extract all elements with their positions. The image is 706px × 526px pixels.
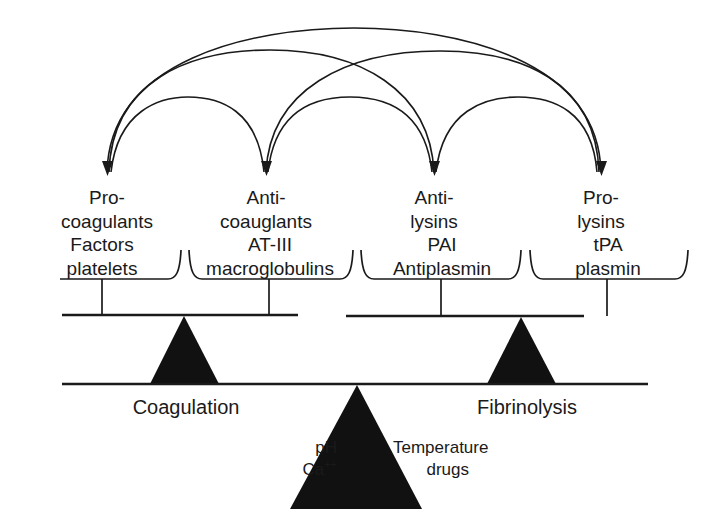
arrow-down-icon xyxy=(261,161,272,176)
arrow-down-icon xyxy=(596,161,607,176)
coagulation-label: Coagulation xyxy=(133,395,240,419)
arc-procoag-prolysins xyxy=(107,28,601,172)
arc-antilysins-prolysins xyxy=(436,97,597,172)
substance-factors-platelets: Factors platelets xyxy=(67,233,138,281)
category-anticoagulants: Anti- coauglants xyxy=(220,186,312,234)
category-antilysins: Anti- lysins xyxy=(410,186,458,234)
arrow-down-icon xyxy=(429,161,440,176)
modifiers-left: pH Ca++ xyxy=(302,437,337,481)
substance-at3-macroglobulins: AT-III macroglobulins xyxy=(206,233,334,281)
coagulation-fulcrum xyxy=(150,316,219,384)
arc-procoag-anticoag xyxy=(111,97,264,172)
arc-anticoag-antilysins xyxy=(268,97,432,172)
arrowheads xyxy=(102,161,607,176)
interaction-arcs xyxy=(107,28,601,172)
lever-bars xyxy=(62,315,584,316)
calcium-label: Ca++ xyxy=(302,459,337,481)
fibrinolysis-fulcrum xyxy=(487,317,556,384)
category-prolysins: Pro- lysins xyxy=(577,186,625,234)
small-fulcrums xyxy=(150,316,556,384)
category-procoagulants: Pro- coagulants xyxy=(61,186,153,234)
substance-tpa-plasmin: tPA plasmin xyxy=(575,233,640,281)
fibrinolysis-label: Fibrinolysis xyxy=(477,395,577,419)
stems xyxy=(102,279,607,316)
modifiers-right: Temperature drugs xyxy=(393,437,488,481)
substance-pai-antiplasmin: PAI Antiplasmin xyxy=(393,233,491,281)
